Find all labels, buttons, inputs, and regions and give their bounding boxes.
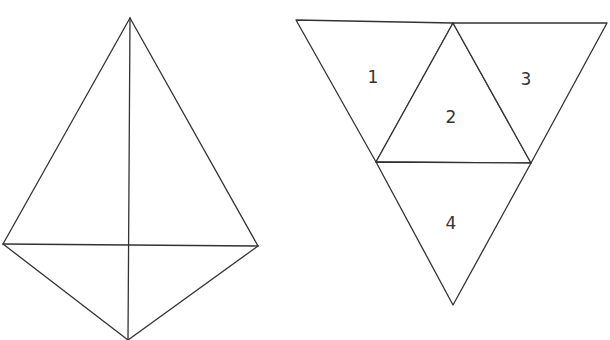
tetrahedron-net-figure: 1234 (296, 20, 607, 305)
tetrahedron-3d-figure (3, 18, 258, 340)
face-label: 3 (521, 69, 532, 89)
edge-left-bottom (3, 244, 128, 340)
face-label: 2 (446, 107, 457, 127)
face-label: 1 (368, 67, 379, 87)
edge-left-right (3, 244, 258, 246)
edge-apex-bottom (128, 18, 130, 340)
diagram-canvas: 1234 (0, 0, 610, 340)
edge-right-bottom (128, 246, 258, 340)
face-triangle (376, 162, 531, 305)
net-face-4: 4 (376, 162, 531, 305)
edge-apex-left (3, 18, 130, 244)
edge-apex-right (130, 18, 258, 246)
face-label: 4 (446, 213, 457, 233)
